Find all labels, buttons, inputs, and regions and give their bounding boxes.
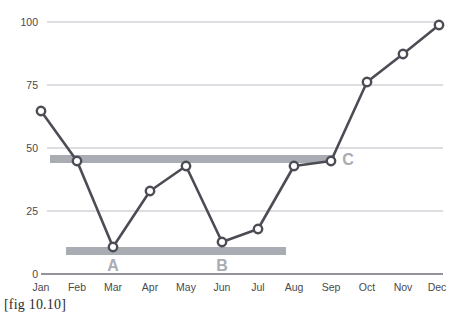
- annotation-band-a-b: [66, 247, 286, 255]
- chart-area: 100 75 50 25 0: [0, 0, 452, 300]
- data-point-jun: [218, 238, 226, 246]
- data-markers: [37, 21, 443, 251]
- data-point-sep: [327, 157, 335, 165]
- annotation-labels: A B C: [107, 151, 354, 274]
- x-tick-label-oct: Oct: [359, 281, 375, 293]
- data-point-feb: [73, 157, 81, 165]
- gridlines: [47, 22, 443, 211]
- y-axis-tick-labels: 100 75 50 25 0: [20, 16, 38, 280]
- data-line: [41, 25, 439, 247]
- x-tick-label-aug: Aug: [285, 281, 304, 293]
- figure-container: 100 75 50 25 0: [0, 0, 452, 321]
- annotation-label-b: B: [216, 257, 228, 274]
- y-tick-label-100: 100: [20, 16, 38, 28]
- data-point-jan: [37, 107, 45, 115]
- x-tick-label-dec: Dec: [428, 281, 447, 293]
- data-point-mar: [109, 243, 117, 251]
- x-tick-label-apr: Apr: [142, 281, 159, 293]
- x-tick-label-jan: Jan: [33, 281, 50, 293]
- x-tick-label-mar: Mar: [104, 281, 123, 293]
- data-point-jul: [254, 225, 262, 233]
- x-axis-tick-labels: Jan Feb Mar Apr May Jun Jul Aug Sep Oct …: [33, 281, 447, 293]
- data-point-oct: [363, 78, 371, 86]
- y-tick-label-75: 75: [26, 79, 38, 91]
- data-point-dec: [435, 21, 443, 29]
- y-tick-label-50: 50: [26, 142, 38, 154]
- y-tick-label-25: 25: [26, 205, 38, 217]
- x-tick-label-nov: Nov: [394, 281, 413, 293]
- line-chart: 100 75 50 25 0: [0, 0, 452, 300]
- data-point-apr: [146, 187, 154, 195]
- x-tick-label-sep: Sep: [322, 281, 341, 293]
- x-tick-label-may: May: [176, 281, 197, 293]
- data-point-aug: [290, 162, 298, 170]
- x-tick-label-jun: Jun: [214, 281, 231, 293]
- y-tick-label-0: 0: [32, 268, 38, 280]
- annotation-label-a: A: [107, 257, 119, 274]
- data-point-nov: [399, 50, 407, 58]
- figure-caption: [fig 10.10]: [4, 297, 66, 313]
- x-tick-label-jul: Jul: [251, 281, 264, 293]
- x-tick-label-feb: Feb: [68, 281, 86, 293]
- data-point-may: [182, 162, 190, 170]
- annotation-label-c: C: [342, 151, 354, 168]
